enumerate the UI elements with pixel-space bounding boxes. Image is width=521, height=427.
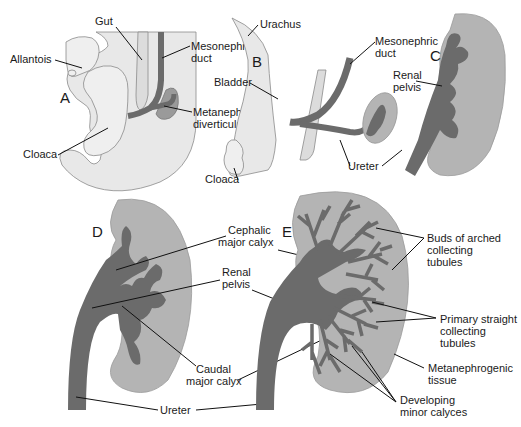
label-cephalic-2: major calyx bbox=[218, 236, 274, 248]
label-metanephrogenic-2: tissue bbox=[428, 374, 457, 386]
label-primary-1: Primary straight bbox=[440, 313, 517, 325]
label-renal-pelvis-c-2: pelvis bbox=[393, 81, 422, 93]
kidney-development-diagram: A Gut Allantois Mesonephric duct Metanep… bbox=[0, 0, 521, 427]
label-metanephrogenic-1: Metanephrogenic bbox=[428, 362, 514, 374]
label-cephalic-1: Cephalic bbox=[228, 224, 271, 236]
label-minor-calyces-1: Developing bbox=[400, 394, 455, 406]
label-ureter-d: Ureter bbox=[160, 404, 191, 416]
label-allantois: Allantois bbox=[10, 53, 52, 65]
label-cloaca-b: Cloaca bbox=[205, 173, 240, 185]
label-primary-3: tubules bbox=[440, 337, 476, 349]
label-urachus: Urachus bbox=[260, 18, 301, 30]
cloaca-b bbox=[224, 140, 244, 175]
panel-c-letter: C bbox=[430, 47, 441, 64]
label-renal-pelvis-d-2: pelvis bbox=[222, 278, 251, 290]
label-buds-1: Buds of arched bbox=[427, 232, 501, 244]
label-minor-calyces-2: minor calyces bbox=[400, 406, 468, 418]
label-buds-2: collecting bbox=[427, 244, 473, 256]
label-mesonephric-duct-a-2: duct bbox=[191, 52, 212, 64]
panel-b-letter: B bbox=[252, 53, 262, 70]
allantois-lumen bbox=[68, 70, 76, 76]
panel-d bbox=[68, 199, 192, 410]
label-caudal-2: major calyx bbox=[186, 375, 242, 387]
label-cloaca-a: Cloaca bbox=[23, 148, 58, 160]
label-ureter-b: Ureter bbox=[348, 160, 379, 172]
label-caudal-1: Caudal bbox=[196, 363, 231, 375]
panel-d-letter: D bbox=[92, 223, 103, 240]
label-primary-2: collecting bbox=[440, 325, 486, 337]
label-mesonephric-duct-b-2: duct bbox=[375, 47, 396, 59]
gut bbox=[136, 32, 148, 110]
label-buds-3: tubules bbox=[427, 256, 463, 268]
panel-e-letter: E bbox=[282, 223, 292, 240]
panel-a-letter: A bbox=[60, 89, 70, 106]
label-mesonephric-duct-b-1: Mesonephric bbox=[375, 35, 438, 47]
label-gut: Gut bbox=[95, 15, 113, 27]
label-renal-pelvis-d-1: Renal bbox=[222, 266, 251, 278]
label-renal-pelvis-c-1: Renal bbox=[393, 69, 422, 81]
panel-e bbox=[256, 192, 408, 410]
label-bladder: Bladder bbox=[214, 76, 252, 88]
panel-a bbox=[60, 32, 196, 191]
